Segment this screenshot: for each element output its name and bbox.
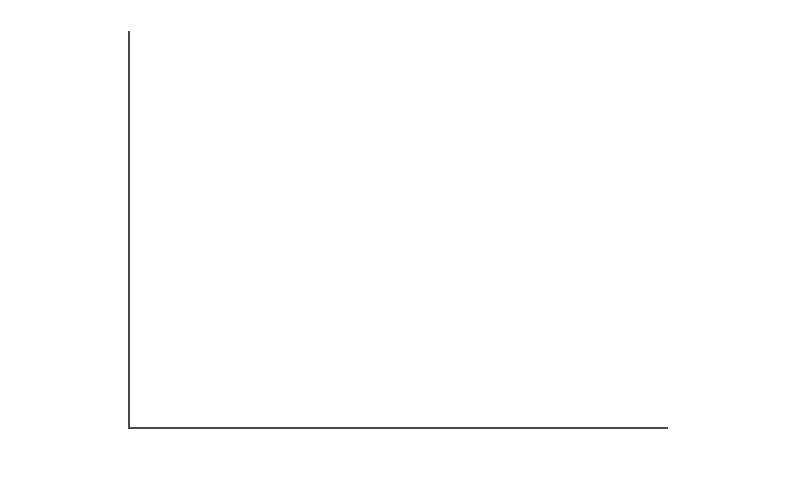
chart-figure (0, 0, 792, 477)
plot-area (0, 0, 792, 477)
